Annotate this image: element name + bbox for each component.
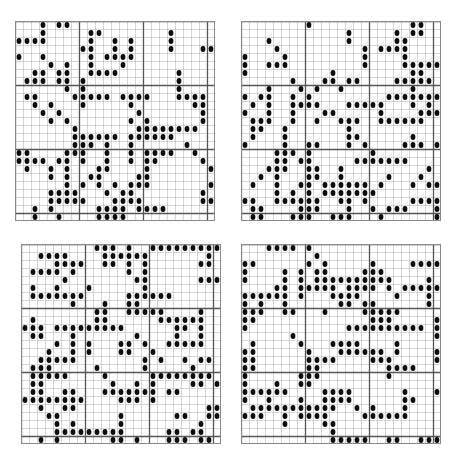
panel-canvas-bottom-left xyxy=(21,244,221,444)
scatter-panel-bottom-left xyxy=(21,244,221,444)
panel-canvas-top-right xyxy=(241,21,441,221)
scatter-panel-bottom-right xyxy=(241,244,441,444)
figure-root xyxy=(0,0,454,465)
scatter-panel-top-left xyxy=(15,21,215,221)
panel-canvas-bottom-right xyxy=(241,244,441,444)
panel-canvas-top-left xyxy=(15,21,215,221)
scatter-panel-top-right xyxy=(241,21,441,221)
